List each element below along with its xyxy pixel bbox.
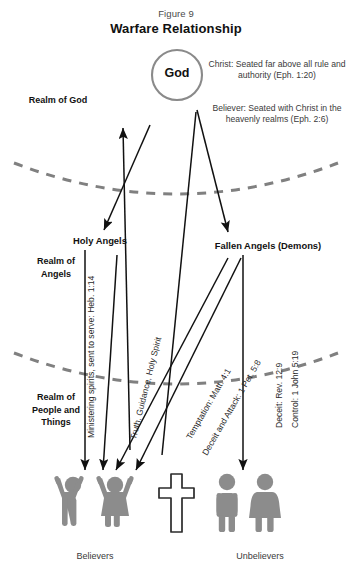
node-label-unbelievers: Unbelievers	[205, 551, 315, 561]
cross-icon	[159, 474, 194, 532]
edge-label-control: Control: 1 John 5:19	[290, 351, 300, 428]
note-christ-seated: Christ: Seated far above all rule and au…	[205, 59, 349, 81]
node-label-holy-angels: Holy Angels	[52, 235, 148, 246]
node-label-believers: Believers	[45, 551, 145, 561]
diagram-canvas: Figure 9 Warfare Relationship God Christ…	[0, 0, 352, 577]
edge-label-ministering-spirits: Ministering spirits, sent to serve: Heb.…	[86, 276, 96, 438]
diagram-artwork	[0, 0, 352, 577]
edge-god-to-fallen-angels	[197, 110, 228, 232]
note-believer-seated: Believer: Seated with Christ in the heav…	[205, 103, 349, 125]
realm-label-angels-line1: Realm of	[6, 255, 106, 268]
node-label-god: God	[150, 66, 204, 80]
edge-truth-guidance	[103, 255, 117, 470]
realm-label-god: Realm of God	[6, 94, 110, 107]
edge-god-to-holy-angels	[104, 125, 150, 230]
node-label-fallen-angels: Fallen Angels (Demons)	[192, 240, 344, 251]
figure-title: Warfare Relationship	[0, 21, 352, 36]
unbeliever-female-icon	[249, 474, 281, 532]
believer-female-icon	[96, 475, 135, 527]
realm-divider-arc-upper	[14, 163, 338, 194]
figure-number: Figure 9	[0, 8, 352, 19]
edge-label-deceit-rev: Deceit: Rev. 12:9	[274, 363, 284, 428]
believer-male-icon	[54, 475, 85, 526]
unbeliever-male-icon	[217, 474, 238, 532]
edge-believers-to-god-b	[162, 112, 196, 455]
edge-believers-to-god-a	[123, 128, 130, 450]
